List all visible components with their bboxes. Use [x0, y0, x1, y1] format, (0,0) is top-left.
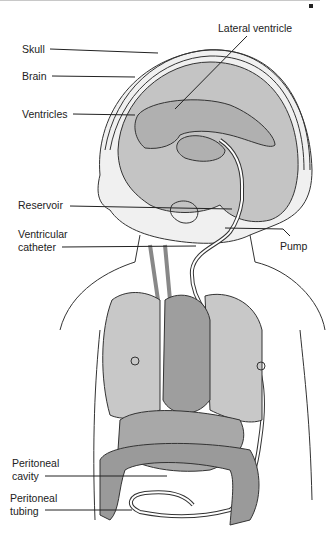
label-peritoneal-tubing-2: tubing — [10, 505, 39, 517]
label-peritoneal-tubing-1: Peritoneal — [10, 492, 57, 504]
vp-shunt-diagram: Skull Brain Ventricles Lateral ventricle… — [0, 0, 336, 551]
label-ventricular-catheter-2: catheter — [18, 241, 56, 253]
label-pump: Pump — [280, 240, 307, 252]
label-skull: Skull — [22, 43, 45, 55]
label-ventricles: Ventricles — [22, 108, 68, 120]
label-brain: Brain — [22, 70, 47, 82]
label-peritoneal-cavity-1: Peritoneal — [12, 457, 59, 469]
label-ventricular-catheter-1: Ventricular — [18, 228, 68, 240]
label-peritoneal-cavity-2: cavity — [12, 470, 39, 482]
label-lateral-ventricle: Lateral ventricle — [218, 22, 292, 34]
label-reservoir: Reservoir — [18, 199, 63, 211]
